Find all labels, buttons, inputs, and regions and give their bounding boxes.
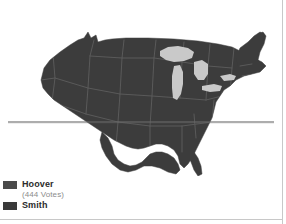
lake-huron xyxy=(194,60,208,80)
legend-label-smith: Smith xyxy=(22,201,48,210)
frame-rule-bottom xyxy=(0,219,283,220)
frame-rule-right xyxy=(282,0,283,224)
hoover-swatch xyxy=(3,181,17,189)
state-region-continental xyxy=(41,32,266,168)
state-region-florida xyxy=(188,150,202,176)
map-highlight-band xyxy=(8,121,274,123)
legend-item-smith[interactable]: Smith xyxy=(3,200,153,211)
legend-label-hoover: Hoover xyxy=(22,180,54,189)
map-states-group xyxy=(8,32,274,176)
smith-swatch xyxy=(3,202,17,210)
electoral-map-figure: Hoover (444 Votes) Smith xyxy=(0,0,286,224)
legend-item-hoover[interactable]: Hoover xyxy=(3,179,153,190)
map-legend: Hoover (444 Votes) Smith xyxy=(3,179,153,211)
us-map-svg xyxy=(8,18,274,176)
legend-sub-hoover-votes: (444 Votes) xyxy=(22,190,153,200)
us-map xyxy=(8,18,274,176)
